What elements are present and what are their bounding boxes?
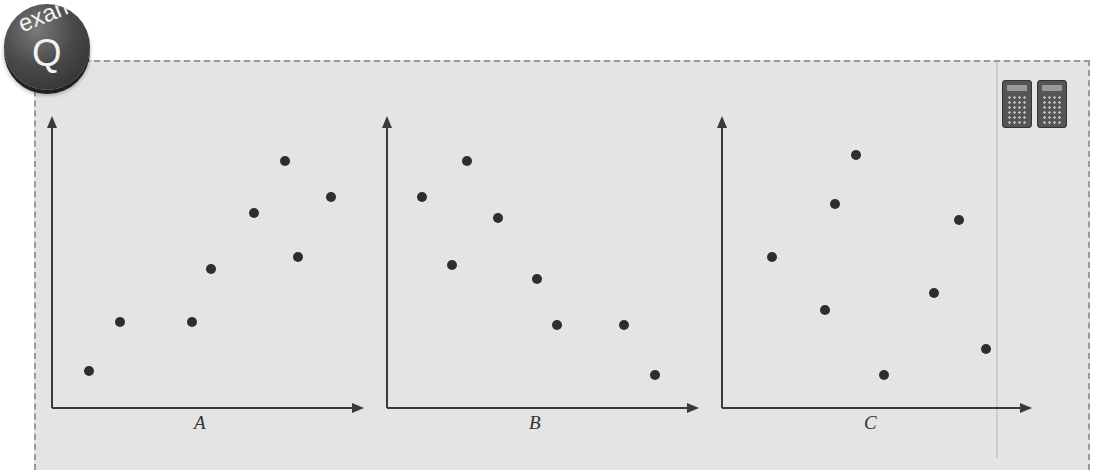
data-point [767, 252, 777, 262]
data-point [493, 213, 503, 223]
data-point [650, 370, 660, 380]
chart-a-label: A [194, 412, 206, 434]
data-point [879, 370, 889, 380]
data-point [462, 156, 472, 166]
data-point [280, 156, 290, 166]
data-point [851, 150, 861, 160]
chart-b-label: B [529, 412, 541, 434]
data-point [447, 260, 457, 270]
chart-c-label: C [864, 412, 877, 434]
data-point [981, 344, 991, 354]
data-point [954, 215, 964, 225]
scatter-chart-a [52, 118, 362, 408]
data-point [619, 320, 629, 330]
data-point [532, 274, 542, 284]
scatter-chart-b [387, 118, 697, 408]
data-point [417, 192, 427, 202]
data-point [326, 192, 336, 202]
data-point [830, 199, 840, 209]
data-point [929, 288, 939, 298]
data-point [206, 264, 216, 274]
data-point [820, 305, 830, 315]
data-point [249, 208, 259, 218]
scatter-chart-c [722, 118, 1030, 408]
data-point [115, 317, 125, 327]
data-point [84, 366, 94, 376]
data-point [552, 320, 562, 330]
data-point [187, 317, 197, 327]
data-point [293, 252, 303, 262]
